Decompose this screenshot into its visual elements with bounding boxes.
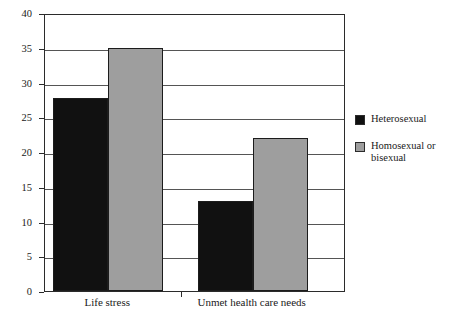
- bar: [108, 48, 163, 291]
- legend-swatch-icon: [355, 115, 365, 125]
- y-axis-tick-label: 20: [0, 148, 32, 158]
- gridline: [45, 85, 344, 86]
- legend-item: Heterosexual: [355, 113, 469, 126]
- legend-item: Homosexual or bisexual: [355, 140, 469, 165]
- bar: [253, 138, 308, 291]
- y-axis-tick-label: 40: [0, 9, 32, 19]
- plot-area: [44, 14, 345, 292]
- legend-label: Homosexual or bisexual: [371, 140, 469, 165]
- legend-swatch-icon: [355, 142, 365, 152]
- x-axis-category-label: Unmet health care needs: [162, 296, 342, 309]
- y-axis: 0510152025303540: [0, 14, 44, 292]
- legend: HeterosexualHomosexual or bisexual: [355, 113, 469, 179]
- y-axis-tick-label: 15: [0, 183, 32, 193]
- y-axis-tick-label: 25: [0, 113, 32, 123]
- y-axis-tick: [39, 292, 44, 293]
- legend-label: Heterosexual: [371, 113, 426, 126]
- bar: [198, 201, 253, 291]
- bar: [53, 98, 108, 291]
- y-axis-tick-label: 5: [0, 252, 32, 262]
- y-axis-tick-label: 10: [0, 218, 32, 228]
- y-axis-tick-label: 30: [0, 79, 32, 89]
- bar-chart: 0510152025303540 HeterosexualHomosexual …: [0, 0, 471, 329]
- x-axis-tick: [181, 292, 182, 297]
- gridline: [45, 50, 344, 51]
- y-axis-tick-label: 35: [0, 44, 32, 54]
